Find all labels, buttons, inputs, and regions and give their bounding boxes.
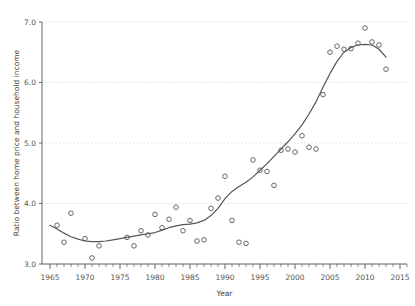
data-point bbox=[69, 211, 74, 216]
data-point bbox=[307, 145, 312, 150]
x-tick-label: 2010 bbox=[355, 273, 374, 282]
y-tick-label: 3.0 bbox=[24, 260, 36, 269]
data-point bbox=[342, 47, 347, 52]
data-point bbox=[314, 147, 319, 152]
data-point bbox=[83, 236, 88, 241]
y-tick-label: 4.0 bbox=[24, 199, 36, 208]
data-point bbox=[153, 212, 158, 217]
x-tick-label: 1985 bbox=[180, 273, 199, 282]
x-tick-label: 2000 bbox=[285, 273, 304, 282]
data-point bbox=[132, 244, 137, 249]
y-tick-label: 7.0 bbox=[24, 18, 36, 27]
y-tick-label: 5.0 bbox=[24, 139, 36, 148]
data-point bbox=[237, 240, 242, 245]
data-point bbox=[216, 196, 221, 201]
x-axis-label: Year bbox=[216, 289, 234, 298]
data-point bbox=[209, 206, 214, 211]
data-point bbox=[335, 44, 340, 49]
data-point bbox=[62, 240, 67, 245]
x-tick-label: 1965 bbox=[40, 273, 59, 282]
data-point bbox=[97, 244, 102, 249]
x-tick-label: 1975 bbox=[110, 273, 129, 282]
data-point bbox=[55, 223, 60, 228]
y-tick-label: 6.0 bbox=[24, 78, 36, 87]
data-point bbox=[363, 26, 368, 31]
x-tick-label: 2015 bbox=[390, 273, 409, 282]
x-axis: 1965197019751980198519901995200020052010… bbox=[40, 264, 409, 282]
data-point bbox=[265, 169, 270, 174]
y-axis-label: Ratio between home price and household i… bbox=[12, 49, 21, 236]
data-point bbox=[230, 218, 235, 223]
x-tick-label: 2005 bbox=[320, 273, 339, 282]
data-point bbox=[370, 40, 375, 45]
chart-container: 3.04.05.06.07.0 196519701975198019851990… bbox=[0, 0, 415, 306]
data-point bbox=[139, 228, 144, 233]
data-point bbox=[167, 217, 172, 222]
data-point bbox=[300, 133, 305, 138]
data-point bbox=[377, 43, 382, 48]
data-point bbox=[321, 92, 326, 97]
data-point bbox=[174, 205, 179, 210]
y-axis: 3.04.05.06.07.0 bbox=[24, 18, 42, 269]
data-point bbox=[251, 158, 256, 163]
data-point bbox=[223, 174, 228, 179]
data-point bbox=[244, 241, 249, 246]
x-tick-label: 1995 bbox=[250, 273, 269, 282]
data-point bbox=[181, 228, 186, 233]
x-tick-label: 1990 bbox=[215, 273, 234, 282]
data-point bbox=[286, 147, 291, 152]
data-point bbox=[272, 183, 277, 188]
data-point bbox=[293, 150, 298, 155]
data-point bbox=[202, 238, 207, 243]
x-tick-label: 1970 bbox=[75, 273, 94, 282]
data-point bbox=[160, 225, 165, 230]
grid-lines bbox=[42, 22, 407, 264]
data-point bbox=[328, 50, 333, 55]
x-tick-label: 1980 bbox=[145, 273, 164, 282]
data-point bbox=[90, 256, 95, 261]
data-point bbox=[195, 239, 200, 244]
data-point bbox=[188, 218, 193, 223]
chart-svg: 3.04.05.06.07.0 196519701975198019851990… bbox=[0, 0, 415, 306]
data-point bbox=[384, 67, 389, 72]
